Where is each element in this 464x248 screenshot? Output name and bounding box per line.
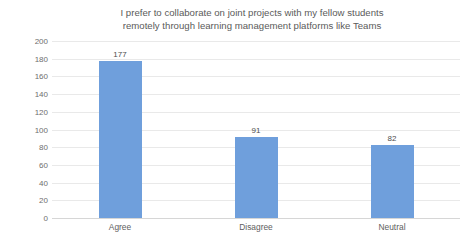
y-axis-tick-label: 120: [4, 107, 48, 116]
y-axis-tick-label: 200: [4, 37, 48, 46]
y-axis-tick-label: 80: [4, 143, 48, 152]
chart-title-line-1: I prefer to collaborate on joint project…: [52, 6, 452, 19]
y-axis-tick-label: 160: [4, 72, 48, 81]
bar[interactable]: [235, 137, 278, 218]
y-axis-tick-label: 20: [4, 196, 48, 205]
y-axis-tick-label: 140: [4, 90, 48, 99]
x-axis-category-label: Disagree: [196, 222, 316, 233]
y-axis-tick-label: 0: [4, 214, 48, 223]
bar-value-label: 177: [90, 50, 150, 59]
x-axis-category-label: Agree: [60, 222, 180, 233]
bar-chart: I prefer to collaborate on joint project…: [0, 0, 464, 248]
axis-line-zero: [52, 218, 460, 219]
y-axis-tick-label: 40: [4, 178, 48, 187]
gridline: [52, 41, 460, 42]
plot-area: 1779182: [52, 41, 460, 218]
bar-value-label: 91: [226, 126, 286, 135]
bar[interactable]: [371, 145, 414, 218]
bar-value-label: 82: [362, 134, 422, 143]
y-axis-tick-label: 60: [4, 160, 48, 169]
y-axis-tick-label: 100: [4, 125, 48, 134]
x-axis-category-label: Neutral: [332, 222, 452, 233]
x-axis: AgreeDisagreeNeutral: [52, 222, 460, 238]
y-axis: 200180160140120100806040200: [0, 41, 48, 218]
bar[interactable]: [99, 61, 142, 218]
y-axis-tick-label: 180: [4, 54, 48, 63]
chart-title: I prefer to collaborate on joint project…: [52, 6, 452, 32]
chart-title-line-2: remotely through learning management pla…: [52, 19, 452, 32]
